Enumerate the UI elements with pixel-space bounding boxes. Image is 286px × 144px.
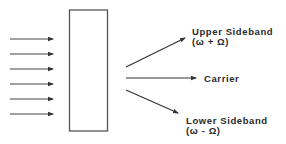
upper-sideband-label: Upper Sideband (ω + Ω): [192, 27, 273, 47]
upper-sideband-formula: (ω + Ω): [192, 37, 273, 47]
lower-sideband-formula: (ω - Ω): [186, 126, 268, 136]
lower-sideband-label: Lower Sideband (ω - Ω): [186, 116, 268, 136]
sideband-diagram: Upper Sideband (ω + Ω) Carrier Lower Sid…: [0, 0, 286, 144]
modulator-box: [70, 10, 108, 131]
carrier-label: Carrier: [204, 74, 239, 84]
input-arrows: [10, 39, 53, 114]
upper-sideband-arrow: [126, 38, 185, 67]
lower-sideband-arrow: [126, 90, 178, 113]
output-arrows: [126, 38, 196, 113]
